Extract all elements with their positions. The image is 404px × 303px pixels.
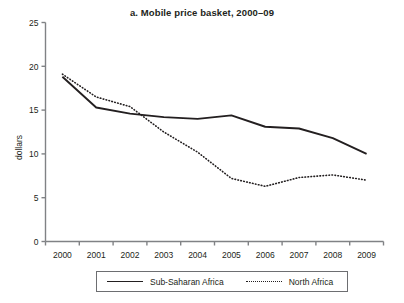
legend-swatch-solid-icon xyxy=(107,278,143,286)
y-tick-label: 15 xyxy=(29,105,39,115)
legend-label-sub-saharan-africa: Sub-Saharan Africa xyxy=(150,277,224,287)
y-tick-label: 10 xyxy=(29,149,39,159)
legend-swatch-dotted-icon xyxy=(246,278,282,286)
legend-item-north-africa: North Africa xyxy=(246,277,333,287)
x-tick-label: 2008 xyxy=(323,250,342,260)
y-tick-label: 0 xyxy=(34,237,39,247)
chart-legend: Sub-Saharan Africa North Africa xyxy=(96,271,348,292)
x-tick-label: 2002 xyxy=(121,250,140,260)
y-tick-label: 5 xyxy=(34,193,39,203)
plot-area: 0510152025200020012002200320042005200620… xyxy=(0,0,404,303)
x-tick-label: 2004 xyxy=(188,250,207,260)
x-tick-label: 2005 xyxy=(222,250,241,260)
series-line-sub-saharan-africa xyxy=(62,77,366,154)
x-tick-label: 2007 xyxy=(290,250,309,260)
legend-label-north-africa: North Africa xyxy=(289,277,333,287)
legend-item-sub-saharan-africa: Sub-Saharan Africa xyxy=(107,277,224,287)
x-tick-label: 2000 xyxy=(53,250,72,260)
x-tick-label: 2006 xyxy=(256,250,275,260)
x-tick-label: 2001 xyxy=(87,250,106,260)
series-line-north-africa xyxy=(62,74,366,186)
chart-container: a. Mobile price basket, 2000–09 dollars … xyxy=(0,0,404,303)
y-tick-label: 20 xyxy=(29,62,39,72)
y-tick-label: 25 xyxy=(29,18,39,28)
x-tick-label: 2009 xyxy=(357,250,376,260)
x-tick-label: 2003 xyxy=(154,250,173,260)
